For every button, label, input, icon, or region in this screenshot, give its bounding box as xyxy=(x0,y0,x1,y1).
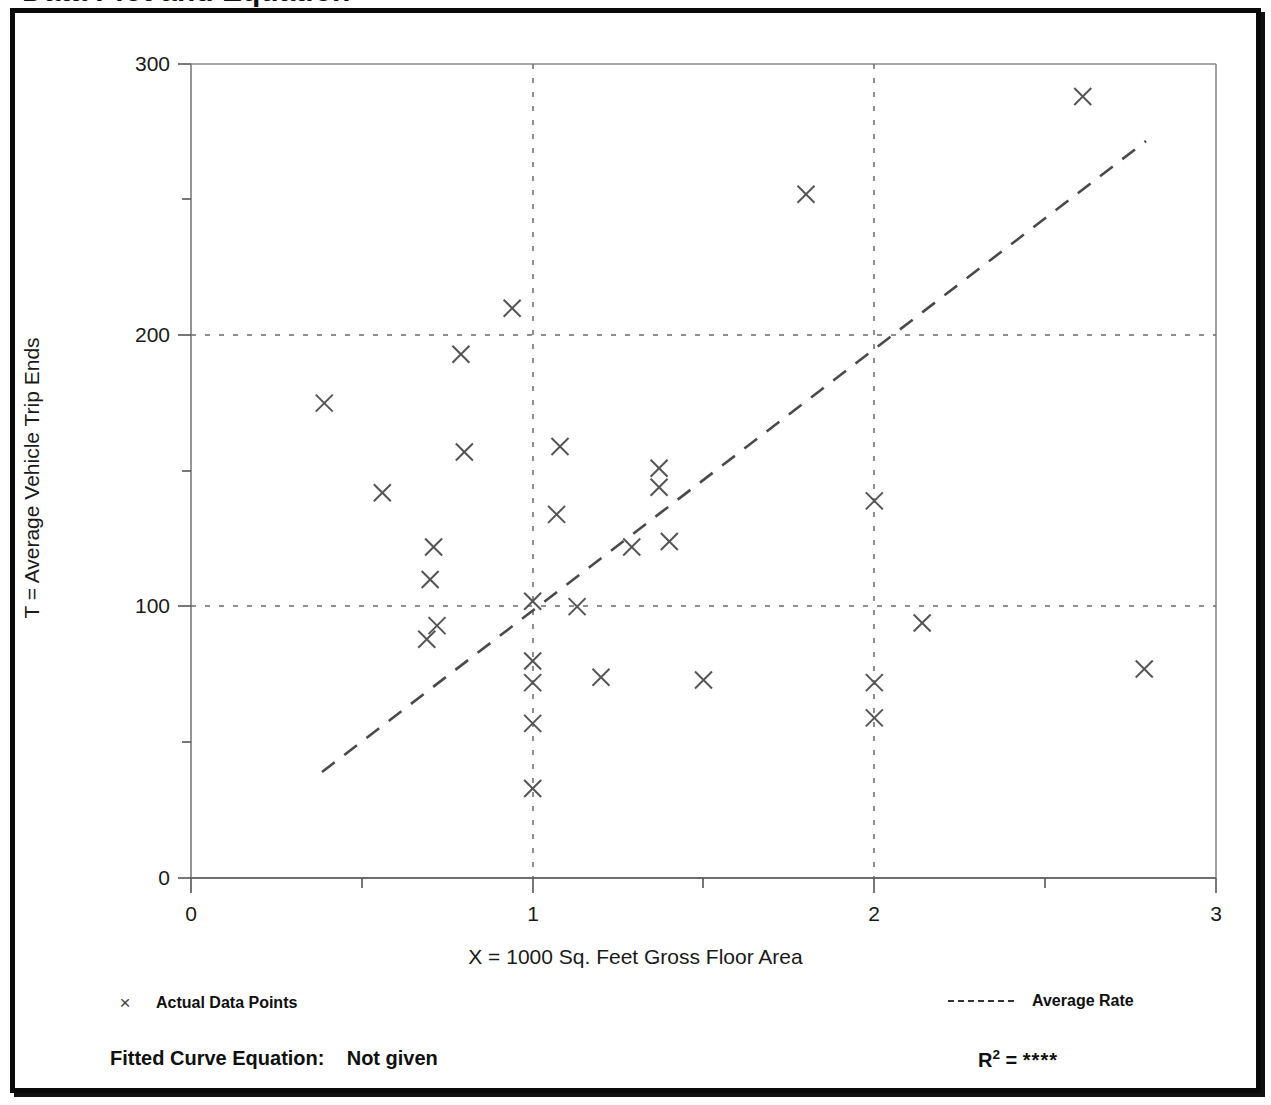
data-point-marker xyxy=(623,538,640,555)
data-point-marker xyxy=(429,617,446,634)
legend-average-rate: Average Rate xyxy=(948,992,1134,1010)
data-point-marker xyxy=(866,492,883,509)
legend-actual-data-points-label: Actual Data Points xyxy=(156,994,297,1012)
scatter-plot xyxy=(0,0,1271,1105)
data-point-marker xyxy=(548,506,565,523)
y-axis-ticks xyxy=(178,64,191,878)
chart-page: Data Plot and Equation T = Average Vehic… xyxy=(0,0,1271,1105)
data-point-marker xyxy=(456,444,473,461)
data-point-marker xyxy=(524,593,541,610)
data-point-marker xyxy=(866,674,883,691)
data-point-marker xyxy=(552,438,569,455)
data-point-marker xyxy=(651,460,668,477)
fitted-curve-equation-value: Not given xyxy=(347,1047,438,1069)
data-point-marker xyxy=(914,614,931,631)
plot-axes xyxy=(191,64,1216,878)
data-point-marker xyxy=(798,186,815,203)
r-squared-value: **** xyxy=(1023,1049,1058,1071)
legend-average-rate-label: Average Rate xyxy=(1032,992,1134,1010)
r-squared-label: R xyxy=(978,1049,992,1071)
fitted-curve-equation-label: Fitted Curve Equation: xyxy=(110,1047,324,1069)
data-point-marker xyxy=(661,533,678,550)
data-point-marker xyxy=(418,631,435,648)
gridlines xyxy=(191,64,1216,878)
data-point-marker xyxy=(695,671,712,688)
data-point-marker xyxy=(452,346,469,363)
data-point-marker xyxy=(1074,88,1091,105)
r-squared-exponent: 2 xyxy=(992,1047,1000,1062)
data-point-marker xyxy=(651,479,668,496)
data-point-marker xyxy=(524,674,541,691)
data-point-marker xyxy=(504,300,521,317)
data-point-marker xyxy=(316,395,333,412)
x-marker-icon: × xyxy=(110,992,140,1014)
fitted-curve-equation: Fitted Curve Equation: Not given xyxy=(110,1047,438,1070)
r-squared-equals: = xyxy=(1006,1049,1018,1071)
average-rate-line xyxy=(322,141,1146,772)
dashed-line-icon xyxy=(948,1000,1014,1002)
data-point-marker xyxy=(593,669,610,686)
data-points xyxy=(316,88,1153,797)
r-squared: R2 = **** xyxy=(978,1047,1058,1072)
legend-actual-data-points: × Actual Data Points xyxy=(110,992,297,1014)
data-point-marker xyxy=(425,538,442,555)
x-axis-ticks xyxy=(191,878,1216,893)
data-point-marker xyxy=(1136,661,1153,678)
data-point-marker xyxy=(422,571,439,588)
data-point-marker xyxy=(524,715,541,732)
data-point-marker xyxy=(374,484,391,501)
